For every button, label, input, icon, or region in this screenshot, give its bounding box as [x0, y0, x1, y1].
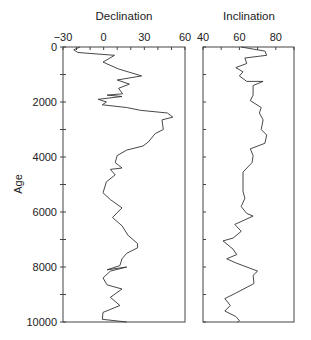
y-tick-label: 0 — [51, 41, 57, 53]
inclination-panel: 406080 — [197, 31, 294, 322]
y-tick-label: 8000 — [33, 261, 57, 273]
declination-title: Declination — [96, 10, 153, 22]
chart-canvas: −30030600200040006000800010000 406080 De… — [0, 0, 311, 340]
x-tick-label: 30 — [138, 31, 150, 43]
paleomagnetic-chart: −30030600200040006000800010000 406080 De… — [0, 0, 311, 340]
x-tick-label: 60 — [233, 31, 245, 43]
y-tick-label: 2000 — [33, 96, 57, 108]
y-axis-label: Age — [12, 174, 24, 194]
x-tick-label: 80 — [270, 31, 282, 43]
y-tick-label: 4000 — [33, 151, 57, 163]
inclination-series-line — [223, 47, 267, 322]
inclination-plot-frame — [203, 47, 294, 322]
x-tick-label: 40 — [197, 31, 209, 43]
y-tick-label: 10000 — [26, 316, 57, 328]
y-tick-label: 6000 — [33, 206, 57, 218]
inclination-title: Inclination — [223, 10, 275, 22]
x-tick-label: 60 — [179, 31, 191, 43]
x-tick-label: 0 — [101, 31, 107, 43]
declination-panel: −30030600200040006000800010000 — [26, 31, 191, 328]
declination-plot-frame — [63, 47, 185, 322]
declination-series-line — [74, 47, 173, 322]
